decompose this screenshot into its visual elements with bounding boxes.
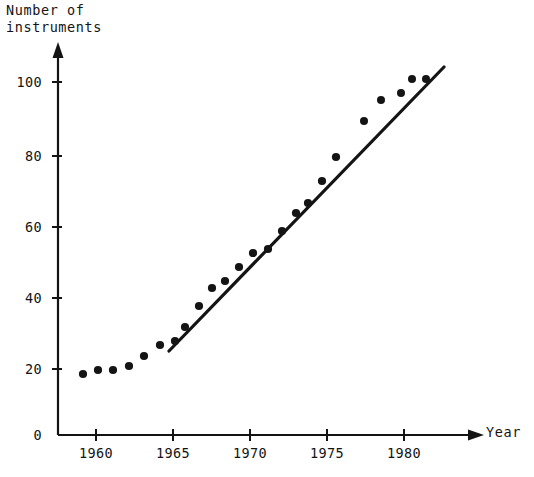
- plot-area: [0, 0, 534, 477]
- data-point: [195, 302, 203, 310]
- data-point: [156, 341, 164, 349]
- data-point: [125, 362, 133, 370]
- x-tick-label-1960: 1960: [79, 445, 113, 461]
- x-tick-label-1965: 1965: [156, 445, 190, 461]
- data-point: [318, 177, 326, 185]
- x-tick-label-1970: 1970: [233, 445, 267, 461]
- data-point: [181, 323, 189, 331]
- chart-figure: Number ofinstruments Year: [0, 0, 534, 477]
- data-point: [397, 89, 405, 97]
- x-axis-arrowhead: [468, 430, 484, 441]
- data-point: [235, 263, 243, 271]
- y-tick-label-80: 80: [8, 148, 42, 164]
- x-tick-label-1980: 1980: [387, 445, 421, 461]
- data-point: [408, 75, 416, 83]
- data-point: [79, 370, 87, 378]
- trend-line: [169, 67, 444, 351]
- data-point: [109, 366, 117, 374]
- x-tick-label-1975: 1975: [310, 445, 344, 461]
- data-point: [292, 209, 300, 217]
- y-axis-arrowhead: [53, 42, 64, 58]
- data-point: [377, 96, 385, 104]
- data-points: [79, 75, 430, 378]
- data-point: [264, 245, 272, 253]
- data-point: [304, 199, 312, 207]
- y-tick-label-20: 20: [8, 361, 42, 377]
- y-tick-label-0: 0: [8, 427, 42, 443]
- data-point: [171, 337, 179, 345]
- data-point: [278, 227, 286, 235]
- y-tick-label-60: 60: [8, 219, 42, 235]
- data-point: [422, 75, 430, 83]
- data-point: [221, 277, 229, 285]
- data-point: [332, 153, 340, 161]
- axes: [53, 42, 485, 441]
- data-point: [94, 366, 102, 374]
- data-point: [208, 284, 216, 292]
- data-point: [249, 249, 257, 257]
- data-point: [140, 352, 148, 360]
- y-tick-label-40: 40: [8, 290, 42, 306]
- y-tick-label-100: 100: [8, 74, 42, 90]
- data-point: [360, 117, 368, 125]
